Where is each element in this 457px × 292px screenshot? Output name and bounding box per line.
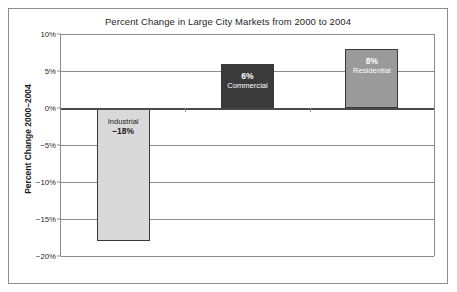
y-tick-mark xyxy=(57,71,61,72)
y-tick-label: 0% xyxy=(45,104,56,113)
bar-value-label: 6% xyxy=(241,71,253,82)
y-tick-mark xyxy=(57,256,61,257)
bar-industrial[interactable]: Industrial−18% xyxy=(97,108,150,241)
y-tick-label: 10% xyxy=(40,30,56,39)
y-tick-label: −20% xyxy=(36,252,56,261)
y-tick-mark xyxy=(57,145,61,146)
bar-category-label: Commercial xyxy=(227,81,268,90)
chart-figure-frame: Percent Change in Large City Markets fro… xyxy=(8,8,448,284)
y-tick-mark xyxy=(57,219,61,220)
x-axis-tick xyxy=(310,108,311,112)
bar-value-label: 8% xyxy=(366,56,378,67)
y-tick-label: 5% xyxy=(45,67,56,76)
y-tick-label: −15% xyxy=(36,215,56,224)
zero-baseline: 0% xyxy=(61,108,434,110)
bar-category-label: Industrial xyxy=(108,117,139,126)
y-tick-label: −5% xyxy=(40,141,56,150)
y-tick-label: −10% xyxy=(36,178,56,187)
chart-title: Percent Change in Large City Markets fro… xyxy=(9,16,447,27)
gridline: −20% xyxy=(61,256,434,257)
gridline: 10% xyxy=(61,34,434,35)
y-tick-mark xyxy=(57,182,61,183)
bar-commercial[interactable]: Commercial6% xyxy=(221,64,274,108)
y-axis-label: Percent Change 2000–2004 xyxy=(23,64,33,214)
x-axis-tick xyxy=(185,108,186,112)
bar-residential[interactable]: Residential8% xyxy=(345,49,398,108)
y-tick-mark xyxy=(57,108,61,109)
plot-area: 10%5%0%−5%−10%−15%−20%Industrial−18%Comm… xyxy=(60,34,435,256)
bar-value-label: −18% xyxy=(112,126,134,137)
bar-category-label: Residential xyxy=(353,66,391,75)
y-tick-mark xyxy=(57,34,61,35)
